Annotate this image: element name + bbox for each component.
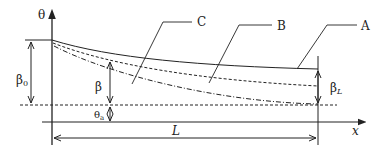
leader-c [132,22,192,84]
theta-axis-label: θ [38,8,45,22]
curve-c [54,46,318,104]
leader-a [297,25,357,69]
curve-c-label: C [197,15,206,29]
beta-l-label: βL [330,81,342,96]
diagram: θ x β0 β θa βL L C B A [0,0,385,156]
x-axis-label: x [352,124,359,138]
diagram-canvas: θ x β0 β θa βL L C B A [0,0,385,156]
curve-a-label: A [360,19,370,33]
curve-b-label: B [277,19,286,33]
length-label: L [171,124,180,138]
beta0-label: β0 [16,73,28,88]
leader-b [209,25,272,83]
curve-a [52,40,318,69]
theta-a-label: θa [94,109,104,122]
beta-label: β [95,80,102,94]
